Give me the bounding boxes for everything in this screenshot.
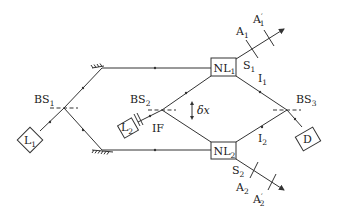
detector-label: D bbox=[303, 133, 312, 146]
a1-prime-label: A′1 bbox=[252, 12, 264, 28]
a2-prime-label: A′2 bbox=[252, 192, 265, 208]
aperture-marks bbox=[246, 30, 276, 190]
a2-label: A2 bbox=[235, 181, 249, 196]
i1-label: I1 bbox=[258, 72, 267, 87]
i2-label: I2 bbox=[258, 132, 267, 147]
s2-label: S2 bbox=[232, 164, 245, 179]
nl1-crystal: NL1 bbox=[211, 58, 236, 76]
displacement-arrow-icon bbox=[190, 101, 194, 120]
bottom-mirror-icon bbox=[92, 150, 113, 155]
bs2-label: BS2 bbox=[130, 93, 151, 108]
a1-label: A1 bbox=[235, 25, 249, 40]
displacement-label: δx bbox=[197, 104, 211, 117]
top-mirror-icon bbox=[91, 64, 104, 69]
s1-label: S1 bbox=[243, 59, 255, 74]
bs1-label: BS1 bbox=[34, 93, 54, 108]
filter-label: IF bbox=[152, 122, 164, 135]
nl2-crystal: NL2 bbox=[211, 142, 236, 160]
optical-setup-diagram: NL1 NL2 L1 L2 IF D δx BS1 BS2 BS3 S1 I1 … bbox=[0, 0, 360, 219]
bs3-label: BS3 bbox=[296, 93, 317, 108]
